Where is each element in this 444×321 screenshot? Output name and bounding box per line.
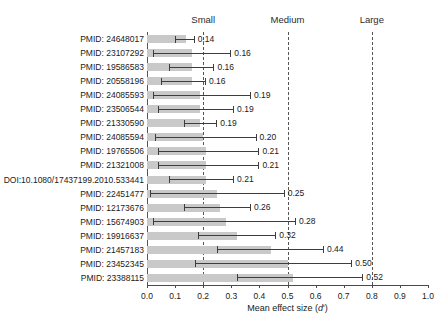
study-label: PMID: 23506544 xyxy=(80,102,144,116)
ci-cap-upper xyxy=(258,148,259,155)
ci-cap-lower xyxy=(158,162,159,169)
effect-size-value: 0.16 xyxy=(234,48,251,58)
confidence-interval-bar xyxy=(169,179,234,180)
ci-cap-upper xyxy=(216,120,217,127)
forest-row: 0.44 xyxy=(147,243,428,257)
study-label: PMID: 21330590 xyxy=(80,116,144,130)
confidence-interval-bar xyxy=(153,95,251,96)
x-tick xyxy=(259,285,260,288)
study-label: PMID: 24085594 xyxy=(80,130,144,144)
ci-cap-lower xyxy=(153,92,154,99)
confidence-interval-bar xyxy=(153,221,296,222)
confidence-interval-bar xyxy=(150,193,285,194)
effect-size-value: 0.25 xyxy=(288,188,305,198)
x-tick-label: 0.0 xyxy=(141,291,153,301)
effect-size-value: 0.16 xyxy=(209,76,226,86)
ci-cap-lower xyxy=(155,134,156,141)
forest-row: 0.16 xyxy=(147,46,428,60)
effect-size-value: 0.44 xyxy=(327,244,344,254)
study-label: PMID: 19586583 xyxy=(80,60,144,74)
confidence-interval-bar xyxy=(158,109,234,110)
ci-cap-upper xyxy=(362,274,363,281)
x-tick xyxy=(400,285,401,288)
effect-size-value: 0.19 xyxy=(220,118,237,128)
x-tick xyxy=(428,285,429,288)
ci-cap-lower xyxy=(198,232,199,239)
forest-row: 0.21 xyxy=(147,144,428,158)
confidence-interval-bar xyxy=(155,137,256,138)
forest-row: 0.21 xyxy=(147,173,428,187)
x-tick xyxy=(372,285,373,288)
effect-size-value: 0.21 xyxy=(262,160,279,170)
ci-cap-upper xyxy=(233,106,234,113)
ci-cap-lower xyxy=(150,190,151,197)
forest-row: 0.14 xyxy=(147,32,428,46)
study-label: PMID: 21457183 xyxy=(80,243,144,257)
x-tick-label: 0.6 xyxy=(310,291,322,301)
x-tick xyxy=(231,285,232,288)
ci-cap-lower xyxy=(169,176,170,183)
study-label: PMID: 23107292 xyxy=(80,46,144,60)
x-tick xyxy=(147,285,148,288)
x-tick-label: 0.7 xyxy=(338,291,350,301)
x-tick-label: 1.0 xyxy=(422,291,434,301)
plot-area: 0.140.160.160.160.190.190.190.200.210.21… xyxy=(147,32,428,285)
effect-size-value: 0.21 xyxy=(237,174,254,184)
study-label: PMID: 19765506 xyxy=(80,144,144,158)
ci-cap-lower xyxy=(158,106,159,113)
x-tick-label: 0.3 xyxy=(225,291,237,301)
ci-cap-upper xyxy=(213,64,214,71)
ci-cap-upper xyxy=(323,246,324,253)
ci-cap-upper xyxy=(230,50,231,57)
confidence-interval-bar xyxy=(184,123,218,124)
study-label: PMID: 22451477 xyxy=(80,187,144,201)
x-axis-title: Mean effect size (d') xyxy=(147,303,428,313)
ci-cap-lower xyxy=(169,64,170,71)
confidence-interval-bar xyxy=(237,277,363,278)
ci-cap-lower xyxy=(184,120,185,127)
x-tick xyxy=(344,285,345,288)
forest-row: 0.28 xyxy=(147,215,428,229)
reference-label-small: Small xyxy=(191,14,215,25)
ci-cap-upper xyxy=(295,218,296,225)
ci-cap-lower xyxy=(237,274,238,281)
effect-size-value: 0.19 xyxy=(254,90,271,100)
effect-size-value: 0.21 xyxy=(262,146,279,156)
study-label: PMID: 23388115 xyxy=(81,271,144,285)
ci-cap-lower xyxy=(153,50,154,57)
study-label: DOI:10.1080/17437199.2010.533441 xyxy=(4,173,144,187)
forest-row: 0.19 xyxy=(147,88,428,102)
effect-size-value: 0.26 xyxy=(254,202,271,212)
confidence-interval-bar xyxy=(158,151,259,152)
ci-cap-upper xyxy=(256,134,257,141)
ci-cap-upper xyxy=(250,92,251,99)
ci-cap-lower xyxy=(195,260,196,267)
x-tick-label: 0.4 xyxy=(253,291,265,301)
study-label: PMID: 21321008 xyxy=(80,158,144,172)
ci-cap-lower xyxy=(158,148,159,155)
confidence-interval-bar xyxy=(184,207,251,208)
reference-label-medium: Medium xyxy=(271,14,305,25)
ci-cap-upper xyxy=(284,190,285,197)
study-label: PMID: 23452345 xyxy=(80,257,144,271)
effect-size-value: 0.50 xyxy=(355,258,372,268)
x-tick xyxy=(175,285,176,288)
x-tick xyxy=(288,285,289,288)
ci-cap-upper xyxy=(258,162,259,169)
forest-row: 0.32 xyxy=(147,229,428,243)
x-axis-line xyxy=(147,285,428,286)
study-label: PMID: 24085593 xyxy=(80,88,144,102)
forest-row: 0.19 xyxy=(147,116,428,130)
forest-plot-figure: SmallMediumLarge PMID: 24648017PMID: 231… xyxy=(0,0,444,321)
x-tick-label: 0.8 xyxy=(366,291,378,301)
confidence-interval-bar xyxy=(175,39,195,40)
ci-cap-upper xyxy=(351,260,352,267)
forest-row: 0.20 xyxy=(147,130,428,144)
forest-row: 0.25 xyxy=(147,187,428,201)
confidence-interval-bar xyxy=(161,81,206,82)
effect-size-value: 0.20 xyxy=(260,132,277,142)
confidence-interval-bar xyxy=(195,263,352,264)
forest-row: 0.16 xyxy=(147,60,428,74)
effect-size-value: 0.32 xyxy=(279,230,296,240)
study-label: PMID: 20558196 xyxy=(80,74,144,88)
